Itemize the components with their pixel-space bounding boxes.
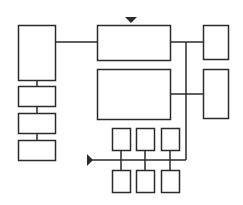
bus-bottom-3-box xyxy=(162,171,180,193)
center-middle-box xyxy=(98,70,171,120)
diagram-svg xyxy=(0,0,243,205)
block-diagram xyxy=(0,0,243,205)
left-stack-2-box xyxy=(19,114,56,134)
bus-bottom-1-box xyxy=(113,171,131,193)
bus-top-1-box xyxy=(113,129,131,151)
right-bottom-box xyxy=(204,70,229,119)
bus-input-arrow-icon xyxy=(87,154,93,166)
left-main-box xyxy=(19,26,56,81)
top-input-arrow-icon xyxy=(125,17,137,23)
center-top-box xyxy=(98,26,171,61)
bus-bottom-2-box xyxy=(137,171,155,193)
bus-top-3-box xyxy=(162,129,180,151)
bus-top-2-box xyxy=(137,129,155,151)
left-stack-1-box xyxy=(19,87,56,107)
left-stack-3-box xyxy=(19,141,56,161)
right-top-box xyxy=(204,26,229,60)
